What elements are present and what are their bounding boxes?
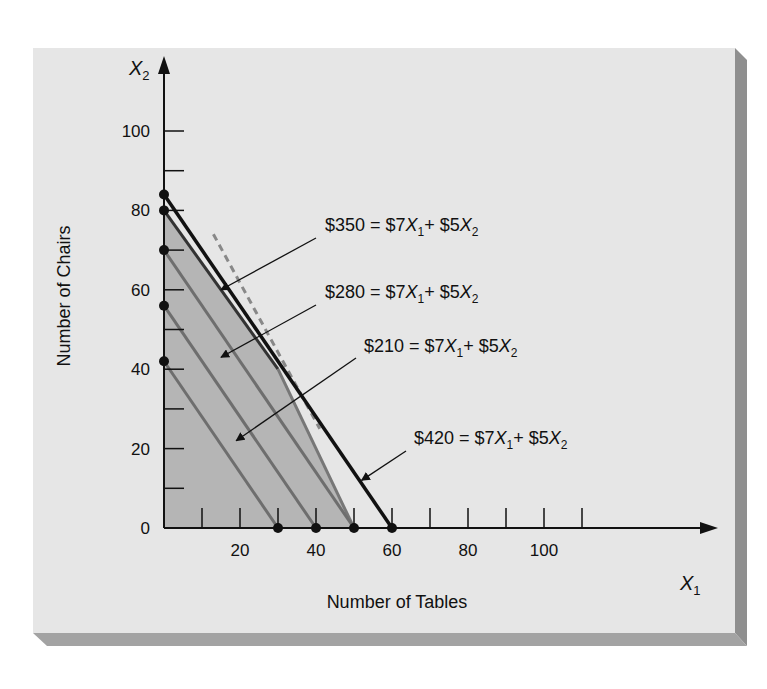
x-tick-label: 80 <box>459 541 478 560</box>
iso-profit-chart: 20406080100020406080100$350 = $7X1+ $5X2… <box>0 0 767 689</box>
intercept-point <box>349 523 359 533</box>
x-tick-label: 100 <box>530 541 558 560</box>
intercept-point <box>387 523 397 533</box>
intercept-point <box>311 523 321 533</box>
intercept-point <box>159 356 169 366</box>
intercept-point <box>159 301 169 311</box>
x-axis-title: Number of Tables <box>327 592 468 612</box>
intercept-point <box>273 523 283 533</box>
intercept-point <box>159 205 169 215</box>
y-tick-label: 60 <box>131 281 150 300</box>
x-tick-label: 40 <box>307 541 326 560</box>
y-tick-label: 40 <box>131 360 150 379</box>
y-tick-label: 0 <box>141 519 150 538</box>
y-tick-label: 20 <box>131 440 150 459</box>
intercept-point <box>159 245 169 255</box>
y-axis-title: Number of Chairs <box>54 225 74 366</box>
panel-shadow-bottom <box>33 633 747 646</box>
intercept-point <box>159 190 169 200</box>
x-tick-label: 60 <box>383 541 402 560</box>
panel-shadow-right <box>735 48 747 646</box>
x-tick-label: 20 <box>231 541 250 560</box>
y-tick-label: 80 <box>131 201 150 220</box>
y-tick-label: 100 <box>122 122 150 141</box>
